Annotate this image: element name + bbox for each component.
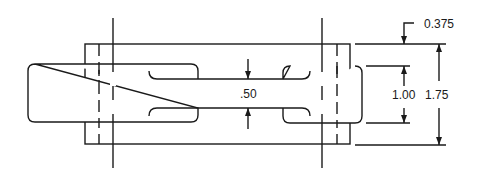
offset-leader <box>404 23 414 44</box>
offset-dim-label: 0.375 <box>424 17 454 31</box>
slot-dim-label: .50 <box>240 87 257 101</box>
overall-dim-label: 1.75 <box>425 88 449 102</box>
inner-dim-label: 1.00 <box>392 88 416 102</box>
technical-drawing: .50 0.375 1.00 1.75 <box>0 0 481 175</box>
